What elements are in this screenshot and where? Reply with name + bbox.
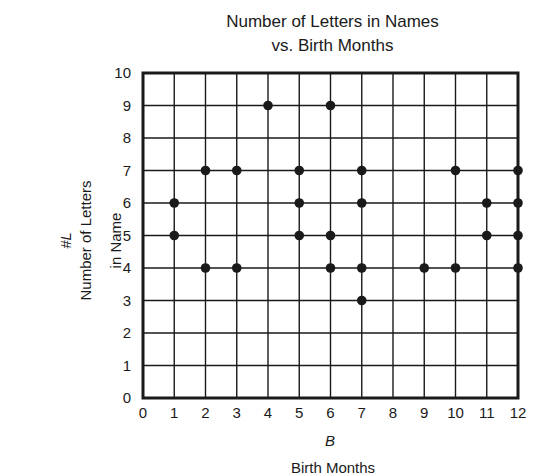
data-point bbox=[232, 263, 242, 273]
data-point bbox=[169, 198, 179, 208]
x-tick-label: 6 bbox=[326, 404, 334, 421]
data-point bbox=[263, 101, 273, 111]
x-tick-label: 10 bbox=[447, 404, 464, 421]
y-axis-label-line-2: in Name bbox=[107, 171, 124, 311]
y-tick-label: 3 bbox=[123, 292, 131, 309]
data-point bbox=[294, 231, 304, 241]
data-point bbox=[169, 231, 179, 241]
y-tick-label: 7 bbox=[123, 162, 131, 179]
x-tick-label: 3 bbox=[233, 404, 241, 421]
y-axis-symbol: #L bbox=[57, 226, 74, 256]
x-tick-label: 7 bbox=[358, 404, 366, 421]
x-tick-label: 2 bbox=[201, 404, 209, 421]
y-tick-label: 10 bbox=[114, 64, 131, 81]
data-point bbox=[326, 231, 336, 241]
data-point bbox=[201, 263, 211, 273]
data-point bbox=[513, 263, 523, 273]
x-tick-label: 11 bbox=[479, 404, 495, 421]
x-tick-label: 12 bbox=[510, 404, 527, 421]
y-tick-label: 5 bbox=[123, 227, 131, 244]
data-point bbox=[201, 166, 211, 176]
data-point bbox=[419, 263, 429, 273]
data-point bbox=[294, 198, 304, 208]
data-point bbox=[357, 198, 367, 208]
data-point bbox=[451, 166, 461, 176]
x-tick-label: 4 bbox=[264, 404, 272, 421]
x-tick-label: 1 bbox=[170, 404, 178, 421]
x-tick-label: 8 bbox=[389, 404, 397, 421]
y-tick-label: 0 bbox=[123, 389, 131, 406]
data-point bbox=[326, 263, 336, 273]
data-point bbox=[513, 166, 523, 176]
data-point bbox=[294, 166, 304, 176]
y-tick-label: 8 bbox=[123, 129, 131, 146]
data-point bbox=[326, 101, 336, 111]
data-point bbox=[482, 231, 492, 241]
data-point bbox=[357, 263, 367, 273]
x-axis-label: Birth Months bbox=[268, 459, 398, 476]
y-tick-label: 6 bbox=[123, 194, 131, 211]
x-tick-label: 0 bbox=[139, 404, 147, 421]
data-point bbox=[482, 198, 492, 208]
x-tick-label: 5 bbox=[295, 404, 303, 421]
y-tick-label: 4 bbox=[123, 259, 131, 276]
data-point bbox=[357, 296, 367, 306]
y-tick-label: 9 bbox=[123, 97, 131, 114]
data-point bbox=[451, 263, 461, 273]
data-point bbox=[357, 166, 367, 176]
x-axis-symbol: B bbox=[280, 432, 380, 449]
y-axis-label-line-1: Number of Letters bbox=[77, 171, 94, 311]
data-point bbox=[513, 231, 523, 241]
y-tick-label: 2 bbox=[123, 324, 131, 341]
data-point bbox=[513, 198, 523, 208]
data-point bbox=[232, 166, 242, 176]
y-tick-label: 1 bbox=[123, 357, 131, 374]
x-tick-label: 9 bbox=[420, 404, 428, 421]
